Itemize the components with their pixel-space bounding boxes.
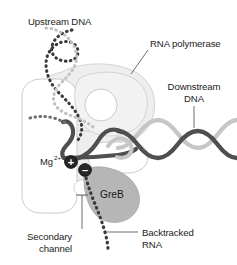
label-upstream-dna: Upstream DNA bbox=[28, 16, 92, 27]
label-secondary-channel-line2: channel bbox=[39, 243, 72, 254]
polymerase-pore-circle bbox=[85, 89, 117, 121]
label-secondary-channel-line1: Secondary bbox=[27, 231, 72, 242]
leader-rna-polymerase bbox=[131, 50, 148, 74]
label-downstream-dna-line1: Downstream bbox=[168, 81, 221, 92]
transcription-backtracking-diagram: + – Upstream DNA RNA polymerase Downstre… bbox=[0, 0, 237, 265]
label-backtracked-rna-line1: Backtracked bbox=[142, 227, 194, 238]
minus-sign-label: – bbox=[82, 164, 88, 176]
label-downstream-dna-line2: DNA bbox=[184, 93, 205, 104]
label-magnesium-charge: 2+ bbox=[54, 154, 61, 161]
label-magnesium-base: Mg bbox=[40, 156, 53, 167]
plus-sign-label: + bbox=[68, 156, 74, 168]
label-greb: GreB bbox=[100, 189, 124, 200]
diagram-canvas: + – Upstream DNA RNA polymerase Downstre… bbox=[0, 0, 237, 265]
label-rna-polymerase: RNA polymerase bbox=[150, 38, 221, 49]
label-backtracked-rna-line2: RNA bbox=[142, 239, 163, 250]
